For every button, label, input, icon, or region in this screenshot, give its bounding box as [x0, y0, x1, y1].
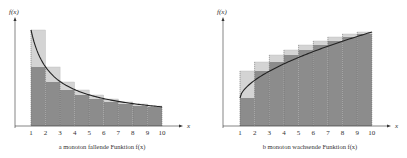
x-tick-label: 4 — [282, 129, 286, 137]
x-axis-arrow-icon — [387, 125, 391, 128]
panel-caption: b monoton wachsende Funktion f(x) — [263, 143, 358, 151]
chart-panel-a: f(x)x12345678910a monoton fallende Funkt… — [9, 8, 191, 151]
lower-sum-rect — [60, 90, 75, 126]
lower-sum-rect — [31, 67, 46, 126]
lower-sum-rect — [104, 102, 119, 126]
y-axis-label: f(x) — [9, 8, 19, 16]
x-tick-label: 4 — [73, 129, 77, 137]
chart-panel-b: f(x)x12345678910b monoton wachsende Funk… — [217, 8, 399, 151]
y-axis-arrow-icon — [14, 17, 17, 21]
lower-sum-rect — [328, 41, 343, 126]
x-axis-label: x — [394, 122, 399, 130]
lower-sum-rect — [147, 107, 162, 126]
panel-caption: a monoton fallende Funktion f(x) — [59, 143, 146, 151]
x-tick-label: 5 — [87, 129, 91, 137]
lower-sum-rect — [75, 95, 90, 126]
x-tick-label: 2 — [253, 129, 257, 137]
y-axis-label: f(x) — [217, 8, 227, 16]
lower-sum-rect — [284, 55, 299, 126]
x-tick-label: 7 — [326, 129, 330, 137]
x-tick-label: 6 — [102, 129, 106, 137]
x-tick-label: 10 — [368, 129, 376, 137]
x-tick-label: 5 — [297, 129, 301, 137]
lower-sum-rect — [89, 99, 104, 126]
x-tick-label: 3 — [58, 129, 62, 137]
x-axis-arrow-icon — [179, 125, 183, 128]
lower-sum-rect — [133, 106, 148, 126]
x-axis-label: x — [186, 122, 191, 130]
lower-sum-rect — [357, 34, 372, 126]
lower-sum-rect — [240, 98, 255, 126]
x-tick-label: 8 — [341, 129, 345, 137]
x-tick-label: 6 — [312, 129, 316, 137]
x-tick-label: 9 — [355, 129, 359, 137]
lower-sum-rect — [46, 82, 61, 126]
lower-sum-rect — [313, 45, 328, 126]
x-tick-label: 9 — [146, 129, 150, 137]
figure: f(x)x12345678910a monoton fallende Funkt… — [0, 0, 407, 158]
x-tick-label: 3 — [268, 129, 272, 137]
lower-sum-rect — [343, 37, 358, 126]
x-tick-label: 7 — [117, 129, 121, 137]
lower-sum-rect — [118, 104, 133, 126]
x-tick-label: 8 — [131, 129, 135, 137]
x-tick-label: 1 — [29, 129, 33, 137]
x-tick-label: 2 — [44, 129, 48, 137]
x-tick-label: 10 — [158, 129, 166, 137]
lower-sum-rect — [299, 50, 314, 126]
lower-sum-rect — [269, 62, 284, 126]
x-tick-label: 1 — [238, 129, 242, 137]
y-axis-arrow-icon — [222, 17, 225, 21]
